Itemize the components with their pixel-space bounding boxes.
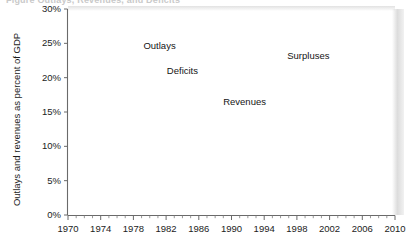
plot-right-shadow — [392, 9, 404, 215]
y-axis-title: Outlays and revenues as percent of GDP — [11, 20, 22, 220]
chart-figure: Figure Outlays, Revenues, and Deficits O… — [0, 0, 412, 244]
plot-area — [68, 9, 395, 215]
y-tick-label: 5% — [47, 175, 61, 186]
annotation-deficits: Deficits — [167, 65, 198, 76]
plot-top-shadow — [68, 6, 395, 11]
x-tick-label: 2010 — [375, 223, 412, 234]
y-tick-label: 15% — [42, 106, 61, 117]
figure-title: Figure Outlays, Revenues, and Deficits — [6, 0, 180, 5]
annotation-surpluses: Surpluses — [287, 50, 329, 61]
y-tick-label: 25% — [42, 37, 61, 48]
plot-background — [68, 9, 395, 215]
y-tick-label: 10% — [42, 140, 61, 151]
y-tick-label: 30% — [42, 3, 61, 14]
annotation-revenues: Revenues — [223, 96, 266, 107]
y-tick-label: 0% — [47, 209, 61, 220]
y-tick-label: 20% — [42, 72, 61, 83]
annotation-outlays: Outlays — [143, 40, 175, 51]
